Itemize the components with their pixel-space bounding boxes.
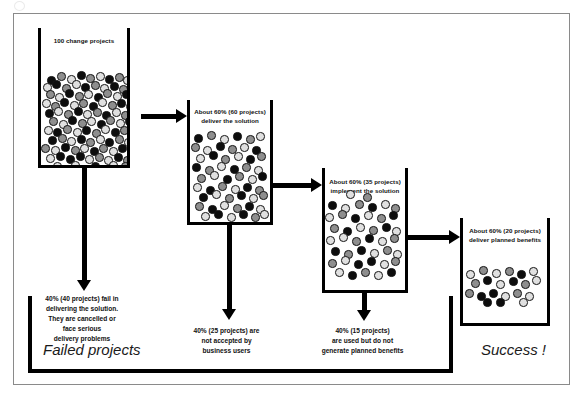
project-dot <box>79 99 88 108</box>
project-dot <box>193 183 202 192</box>
project-dot <box>251 213 260 222</box>
project-dot <box>191 143 200 152</box>
project-dot <box>346 190 355 199</box>
project-dot <box>210 171 219 180</box>
project-dot <box>197 174 206 183</box>
project-dot <box>466 270 475 279</box>
vessel-wall-right <box>270 100 273 225</box>
project-dot <box>331 247 340 256</box>
project-dot <box>126 102 127 111</box>
project-dot <box>328 259 337 268</box>
project-dot <box>42 99 51 108</box>
project-dot <box>352 237 361 246</box>
project-dot <box>60 98 69 107</box>
project-dot <box>114 153 123 162</box>
project-dot <box>84 90 93 99</box>
project-dot <box>44 126 53 135</box>
project-dot <box>112 108 121 117</box>
project-dot <box>242 163 251 172</box>
stage-4-dots <box>463 218 547 323</box>
project-dot <box>258 172 267 181</box>
project-dot <box>243 183 252 192</box>
project-dot <box>41 144 50 153</box>
project-dot <box>61 143 70 152</box>
project-dot <box>120 126 127 135</box>
project-dot <box>118 144 127 153</box>
stage-2-vessel: About 60% (60 projects) deliver the solu… <box>187 100 273 225</box>
project-dot <box>246 135 255 144</box>
project-dot <box>387 268 396 277</box>
project-dot <box>378 237 387 246</box>
project-dot <box>529 267 538 276</box>
project-dot <box>216 142 225 151</box>
project-dot <box>52 80 61 89</box>
project-dot <box>496 298 505 307</box>
vessel-wall-right <box>547 218 550 326</box>
project-dot <box>338 210 347 219</box>
project-dot <box>56 152 65 161</box>
project-dot <box>259 191 268 200</box>
project-dot <box>233 132 242 141</box>
project-dot <box>207 131 216 140</box>
arrow-head <box>449 230 460 244</box>
arrow-stage1-failure <box>81 168 88 291</box>
project-dot <box>214 210 223 219</box>
project-dot <box>509 277 518 286</box>
project-dot <box>68 116 77 125</box>
project-dot <box>115 135 124 144</box>
project-dot <box>192 163 201 172</box>
project-dot <box>351 214 360 223</box>
project-dot <box>99 144 108 153</box>
project-dot <box>65 89 74 98</box>
project-dot <box>106 116 115 125</box>
project-dot <box>513 289 522 298</box>
project-dot <box>381 200 390 209</box>
stage-4-vessel: About 60% (20 projects) deliver planned … <box>460 218 550 326</box>
project-dot <box>125 117 127 126</box>
project-dot <box>101 125 110 134</box>
stage-1-vessel: 100 change projects <box>38 28 130 168</box>
stage-2-dots <box>190 100 270 222</box>
project-dot <box>260 210 269 219</box>
success-outcome-label: Success ! <box>481 341 546 358</box>
project-dot <box>194 134 203 143</box>
project-dot <box>505 267 514 276</box>
stage-1-dots <box>41 28 127 165</box>
arrow-head <box>311 178 322 192</box>
project-dot <box>217 162 226 171</box>
project-dot <box>328 201 337 210</box>
stage-3-vessel: About 60% (35 projects) implement the so… <box>322 168 408 293</box>
project-dot <box>76 152 85 161</box>
project-dot <box>110 82 119 91</box>
project-dot <box>326 236 335 245</box>
arrow-shaft <box>141 114 178 119</box>
bigbox-wall-left <box>28 296 32 373</box>
project-dot <box>98 98 107 107</box>
project-dot <box>54 107 63 116</box>
scan-artifact-icon <box>14 1 25 11</box>
project-dot <box>199 193 208 202</box>
project-dot <box>218 182 227 191</box>
project-dot <box>220 201 229 210</box>
project-dot <box>367 257 376 266</box>
project-dot <box>341 256 350 265</box>
project-dot <box>364 211 373 220</box>
project-dot <box>46 154 55 163</box>
project-dot <box>103 89 112 98</box>
arrow-shaft <box>82 168 87 282</box>
project-dot <box>357 246 366 255</box>
project-dot <box>209 151 218 160</box>
project-dot <box>91 81 100 90</box>
project-dot <box>48 136 57 145</box>
project-dot <box>235 172 244 181</box>
bigbox-wall-right <box>449 296 453 373</box>
arrow-stage3-to-stage4 <box>408 234 460 241</box>
project-dot <box>348 271 357 280</box>
arrow-head <box>176 109 187 123</box>
project-dot <box>245 202 254 211</box>
project-dot <box>377 214 386 223</box>
project-dot <box>239 210 248 219</box>
project-dot <box>325 213 334 222</box>
project-dot <box>121 162 127 165</box>
project-dot <box>57 72 66 81</box>
